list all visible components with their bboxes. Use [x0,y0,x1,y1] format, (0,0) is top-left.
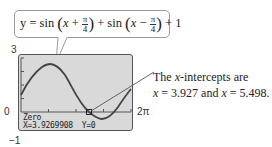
annotation-line-2: x = 3.927 and x = 5.498. [153,85,270,101]
xmax-label: 2π [137,106,149,117]
xmin-label: 0 [4,106,10,117]
ymin-label: −1 [9,135,20,146]
zero-readout: X=3.9269908 Y=0 [23,121,95,130]
annotation-line-1: The x-intercepts are [153,69,270,85]
x-intercepts-annotation: The x-intercepts are x = 3.927 and x = 5… [153,69,270,101]
